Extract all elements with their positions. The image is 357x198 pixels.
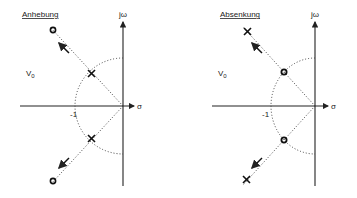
zero-marker-upper xyxy=(50,27,55,32)
panel-title: Absenkung xyxy=(220,10,260,19)
imag-axis-label: jω xyxy=(310,10,319,19)
zero-marker-upper xyxy=(281,69,286,74)
panel-absenkung: Absenkung jω σ -1 V0 xyxy=(212,10,336,186)
radial-line-upper xyxy=(50,27,123,106)
gain-label: V0 xyxy=(26,69,35,79)
real-axis-label: σ xyxy=(331,102,336,111)
imag-axis-label: jω xyxy=(118,10,127,19)
movement-arrow-lower xyxy=(59,158,69,168)
pole-marker-lower xyxy=(88,135,95,142)
radial-line-lower xyxy=(243,106,315,185)
pole-marker-lower xyxy=(243,176,250,183)
pole-marker-upper xyxy=(88,70,95,77)
zero-marker-lower xyxy=(281,137,286,142)
tick-label-minus-one: -1 xyxy=(262,110,270,119)
gain-label: V0 xyxy=(218,69,227,79)
radial-line-lower xyxy=(50,106,123,185)
panel-title: Anhebung xyxy=(22,10,58,19)
panel-anhebung: Anhebung jω σ -1 V0 xyxy=(20,10,142,186)
pole-zero-diagrams: Anhebung jω σ -1 V0 Absenkung jω σ -1 V0 xyxy=(0,0,357,198)
radial-line-upper xyxy=(243,27,315,106)
movement-arrow-upper xyxy=(252,43,262,53)
zero-marker-lower xyxy=(50,178,55,183)
pole-marker-upper xyxy=(244,28,251,35)
movement-arrow-upper xyxy=(59,43,69,53)
real-axis-label: σ xyxy=(137,102,142,111)
